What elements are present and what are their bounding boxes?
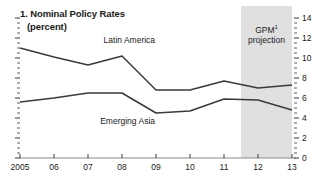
y-tick-label: 8 [302,74,307,83]
y-tick-label: 14 [302,14,311,23]
y-tick-label: 4 [302,114,307,123]
x-tick-label: 13 [272,163,312,172]
projection-footnote-marker: 1 [275,24,278,30]
projection-label-line1: GPM1 [234,22,300,35]
series-label-emerging-asia: Emerging Asia [100,117,155,126]
series-label-latin-america: Latin America [104,36,156,45]
y-tick-label: 10 [302,54,311,63]
projection-label-line2: projection [234,35,300,45]
projection-annotation: GPM1projection [234,22,300,45]
y-tick-label: 6 [302,94,307,103]
nominal-policy-rates-chart: 1. Nominal Policy Rates (percent) 024681… [0,0,327,184]
y-tick-label: 0 [302,154,307,163]
y-tick-label: 2 [302,134,307,143]
y-tick-label: 12 [302,34,311,43]
